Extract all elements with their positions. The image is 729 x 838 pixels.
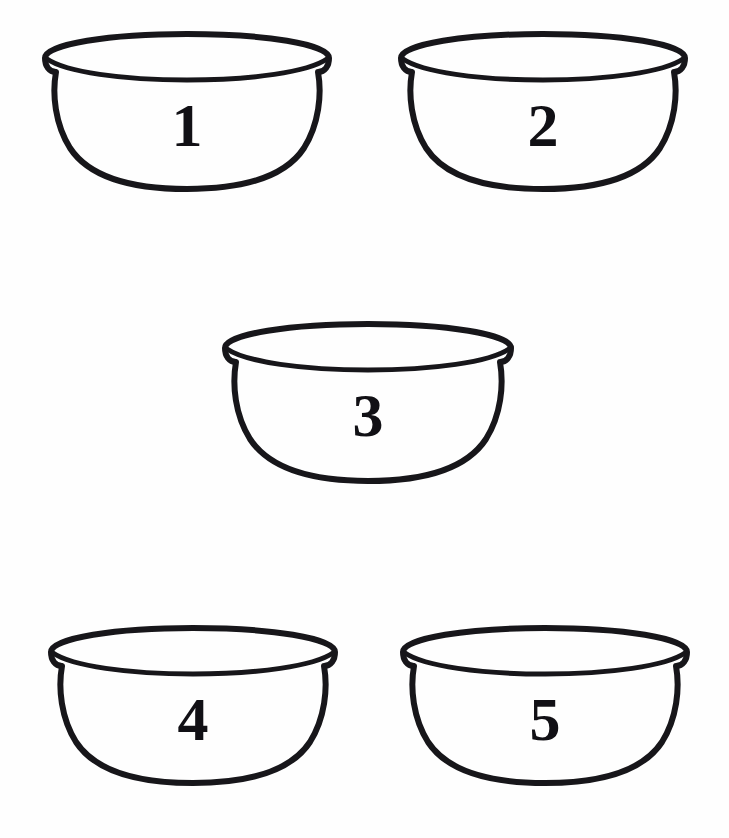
bowl-3[interactable]: 3 [216,318,520,484]
bowl-1[interactable]: 1 [36,28,338,192]
bowl-5[interactable]: 5 [394,622,696,786]
bowl-1-label: 1 [36,94,338,156]
bowl-3-label: 3 [216,384,520,446]
bowl-4[interactable]: 4 [42,622,344,786]
bowl-2[interactable]: 2 [392,28,694,192]
bowls-figure: 1 2 3 4 5 [0,0,729,838]
bowl-5-label: 5 [394,688,696,750]
bowl-2-label: 2 [392,94,694,156]
bowl-4-label: 4 [42,688,344,750]
